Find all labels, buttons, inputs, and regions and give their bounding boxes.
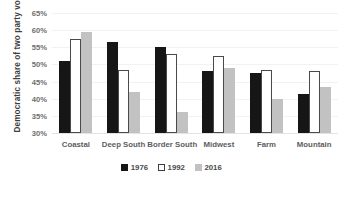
y-axis-tick-label: 40% bbox=[32, 94, 47, 103]
legend-item-2016[interactable]: 2016 bbox=[195, 163, 222, 172]
bar-mountain-1992 bbox=[309, 71, 320, 133]
bar-groups: CoastalDeep SouthBorder SouthMidwestFarm… bbox=[52, 13, 338, 133]
y-axis-tick-label: 60% bbox=[32, 26, 47, 35]
legend-label: 1992 bbox=[168, 163, 185, 172]
bar-deep-south-1992 bbox=[118, 70, 129, 133]
bar-chart-figure: Democratic share of two party vote 65%60… bbox=[0, 0, 343, 197]
bar-border-south-1976 bbox=[155, 47, 166, 133]
bar-coastal-2016 bbox=[81, 32, 92, 133]
bar-mountain-1976 bbox=[298, 94, 309, 133]
bar-group: Coastal bbox=[52, 13, 100, 133]
bars bbox=[147, 13, 195, 133]
filled-black-square-icon bbox=[121, 164, 128, 171]
y-axis-tick-label: 30% bbox=[32, 129, 47, 138]
filled-gray-square-icon bbox=[195, 164, 202, 171]
plot-area: 65%60%55%50%45%40%35%30% CoastalDeep Sou… bbox=[52, 13, 338, 133]
y-axis-title: Democratic share of two party vote bbox=[13, 0, 22, 138]
bars bbox=[243, 13, 291, 133]
bars bbox=[100, 13, 148, 133]
legend-item-1992[interactable]: 1992 bbox=[158, 163, 185, 172]
bar-group: Deep South bbox=[100, 13, 148, 133]
bar-group: Border South bbox=[147, 13, 195, 133]
bar-farm-2016 bbox=[272, 99, 283, 133]
bar-group: Mountain bbox=[290, 13, 338, 133]
bar-coastal-1992 bbox=[70, 39, 81, 133]
bar-deep-south-2016 bbox=[129, 92, 140, 133]
x-axis-tick-label: Midwest bbox=[195, 140, 243, 149]
y-axis-tick-label: 45% bbox=[32, 77, 47, 86]
y-axis-tick-label: 65% bbox=[32, 9, 47, 18]
gridline bbox=[52, 133, 338, 134]
bars bbox=[290, 13, 338, 133]
bar-group: Farm bbox=[243, 13, 291, 133]
bars bbox=[52, 13, 100, 133]
legend-label: 2016 bbox=[204, 163, 221, 172]
x-axis-tick-label: Deep South bbox=[100, 140, 148, 149]
bar-coastal-1976 bbox=[59, 61, 70, 133]
x-axis-tick-label: Border South bbox=[147, 140, 195, 149]
bar-midwest-2016 bbox=[224, 68, 235, 133]
bar-farm-1976 bbox=[250, 73, 261, 133]
y-axis-tick-label: 35% bbox=[32, 111, 47, 120]
bar-midwest-1992 bbox=[213, 56, 224, 133]
legend-item-1976[interactable]: 1976 bbox=[121, 163, 148, 172]
y-axis-tick-label: 50% bbox=[32, 60, 47, 69]
bar-deep-south-1976 bbox=[107, 42, 118, 133]
bars bbox=[195, 13, 243, 133]
outlined-white-square-icon bbox=[158, 164, 165, 171]
chart-legend: 197619922016 bbox=[0, 163, 343, 172]
x-axis-tick-label: Mountain bbox=[290, 140, 338, 149]
y-axis-tick-label: 55% bbox=[32, 43, 47, 52]
legend-label: 1976 bbox=[131, 163, 148, 172]
bar-border-south-1992 bbox=[166, 54, 177, 133]
x-axis-tick-label: Coastal bbox=[52, 140, 100, 149]
bar-border-south-2016 bbox=[177, 112, 188, 133]
bar-midwest-1976 bbox=[202, 71, 213, 133]
bar-farm-1992 bbox=[261, 70, 272, 133]
bar-group: Midwest bbox=[195, 13, 243, 133]
x-axis-tick-label: Farm bbox=[243, 140, 291, 149]
bar-mountain-2016 bbox=[320, 87, 331, 133]
